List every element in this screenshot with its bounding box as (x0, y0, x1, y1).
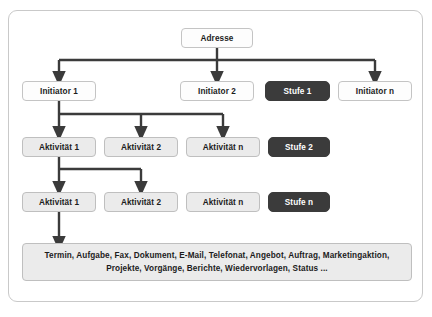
node-aktivitaet-n-row2: Aktivität n (186, 192, 260, 212)
node-initiator-n: Initiator n (338, 81, 412, 101)
node-label: Stufe 1 (284, 87, 312, 96)
node-aktivitaet-n-row1: Aktivität n (186, 137, 260, 157)
node-initiator-1: Initiator 1 (22, 81, 96, 101)
summary-line-2: Projekte, Vorgänge, Berichte, Wiedervorl… (33, 263, 401, 276)
node-stufe-1: Stufe 1 (265, 81, 330, 101)
node-aktivitaet-1-row1: Aktivität 1 (22, 137, 96, 157)
node-label: Stufe n (285, 198, 313, 207)
node-label: Adresse (200, 34, 233, 43)
node-adresse: Adresse (181, 28, 253, 48)
node-aktivitaet-2-row2: Aktivität 2 (104, 192, 178, 212)
diagram-canvas: Adresse Initiator 1 Initiator 2 Stufe 1 … (0, 0, 432, 317)
node-label: Aktivität 1 (39, 198, 79, 207)
node-aktivitaet-2-row1: Aktivität 2 (104, 137, 178, 157)
node-aktivitaet-1-row2: Aktivität 1 (22, 192, 96, 212)
node-label: Aktivität n (203, 198, 244, 207)
node-label: Stufe 2 (285, 143, 313, 152)
node-label: Aktivität 1 (39, 143, 79, 152)
node-label: Aktivität 2 (121, 198, 161, 207)
node-initiator-2: Initiator 2 (180, 81, 254, 101)
node-label: Initiator 1 (40, 87, 78, 96)
node-label: Initiator 2 (198, 87, 236, 96)
node-stufe-2: Stufe 2 (268, 137, 330, 157)
summary-line-1: Termin, Aufgabe, Fax, Dokument, E-Mail, … (33, 250, 401, 263)
node-label: Initiator n (356, 87, 394, 96)
node-summary-list: Termin, Aufgabe, Fax, Dokument, E-Mail, … (22, 243, 412, 281)
node-label: Aktivität n (203, 143, 244, 152)
node-stufe-n: Stufe n (268, 192, 330, 212)
node-label: Aktivität 2 (121, 143, 161, 152)
